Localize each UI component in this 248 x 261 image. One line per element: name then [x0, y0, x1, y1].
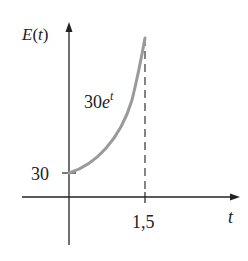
- y-axis-arrow-icon: [66, 22, 73, 32]
- x-axis-arrow-icon: [230, 194, 240, 201]
- x-axis-label: t: [228, 207, 234, 227]
- y-axis-label: E(t): [21, 25, 48, 44]
- curve-label: 30et: [84, 89, 114, 112]
- x-tick-label: 1,5: [132, 212, 155, 232]
- exponential-chart: E(t) 30et 30 1,5 t: [0, 0, 248, 261]
- y-tick-label: 30: [31, 164, 49, 184]
